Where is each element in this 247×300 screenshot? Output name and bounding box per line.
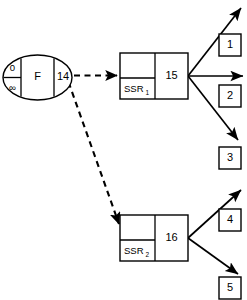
ssr-2-value: 16 [165, 231, 177, 243]
edge-ssr2-out-down [188, 238, 238, 274]
terminal-3-label: 3 [227, 151, 233, 163]
terminal-box-4[interactable]: 4 [219, 209, 241, 231]
diagram-svg: 0 ∞ F 14 SSR 1 15 SSR 2 16 1 [0, 0, 247, 300]
diagram-canvas: 0 ∞ F 14 SSR 1 15 SSR 2 16 1 [0, 0, 247, 300]
source-state-value: 14 [57, 70, 69, 82]
ssr-1-node[interactable]: SSR 1 15 [120, 53, 188, 99]
edge-ssr2-to-source [69, 82, 120, 224]
ssr-1-name: SSR [124, 83, 144, 94]
terminal-2-label: 2 [227, 89, 233, 101]
terminal-1-label: 1 [227, 38, 233, 50]
terminal-box-2[interactable]: 2 [219, 85, 241, 107]
ssr-2-node[interactable]: SSR 2 16 [120, 215, 188, 261]
ssr-2-subscript: 2 [146, 251, 150, 258]
terminal-4-label: 4 [227, 213, 233, 225]
ssr-1-subscript: 1 [146, 89, 150, 96]
source-state-label: F [34, 70, 41, 82]
terminal-box-3[interactable]: 3 [219, 147, 241, 169]
ssr-2-name: SSR [124, 245, 144, 256]
ssr-1-value: 15 [165, 69, 177, 81]
terminal-box-5[interactable]: 5 [219, 277, 241, 299]
source-cost-lower: ∞ [9, 82, 16, 93]
terminal-box-1[interactable]: 1 [219, 34, 241, 56]
terminal-5-label: 5 [227, 281, 233, 293]
source-oval-node[interactable]: 0 ∞ F 14 [3, 55, 72, 100]
source-cost-upper: 0 [10, 62, 15, 73]
